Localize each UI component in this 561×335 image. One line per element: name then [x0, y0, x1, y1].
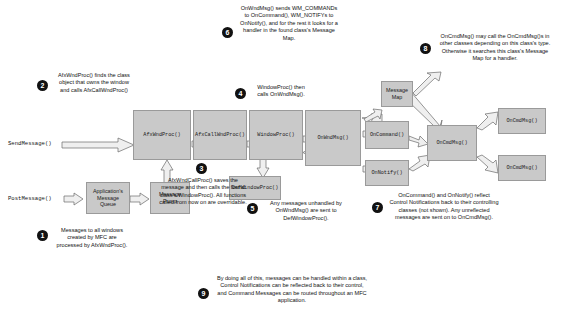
- box-label: Message Map: [386, 87, 408, 101]
- arrow-callout8-pointer: [413, 72, 441, 98]
- box-label: AfxCallWndProc(): [195, 132, 245, 139]
- callout-bullet-1: 1: [37, 230, 48, 241]
- callout-bullet-7: 7: [372, 202, 383, 213]
- box-oncommand: OnCommand(): [365, 121, 409, 149]
- arrow-sendmessage-to-afxwndproc: [62, 138, 136, 152]
- callout-bullet-8: 8: [420, 43, 431, 54]
- box-afxwndproc: AfxWndProc(): [133, 110, 191, 160]
- label-postmessage: PostMessage(): [8, 195, 52, 202]
- box-application-message-queue: Application's Message Queue: [86, 182, 130, 214]
- arrow-oncmdmsg-to-oncmdmsg-other-1: [477, 112, 499, 130]
- label-sendmessage: SendMessage(): [8, 140, 52, 147]
- box-label: OnCmdMsg(): [506, 118, 537, 125]
- box-label: AfxWndProc(): [143, 132, 180, 139]
- box-onnotify: OnNotify(): [365, 160, 409, 186]
- diagram-canvas: SendMessage() PostMessage() Application'…: [0, 0, 561, 335]
- callout-text-5: Any messages unhandled by OnWndMsg() are…: [264, 200, 348, 222]
- box-label: Application's Message Queue: [93, 188, 123, 208]
- callout-text-2: AfxWndProc() finds the class object that…: [55, 72, 133, 94]
- callout-bullet-5: 5: [247, 203, 258, 214]
- box-label: OnWndMsg(): [317, 135, 348, 142]
- arrow-queue-to-pump: [130, 193, 150, 205]
- box-label: OnCmdMsg(): [506, 165, 537, 172]
- callout-bullet-3: 3: [196, 163, 207, 174]
- box-label: WindowProc(): [257, 132, 294, 139]
- box-onwndmsg: OnWndMsg(): [305, 110, 361, 166]
- box-label: OnCommand(): [370, 132, 404, 139]
- arrow-oncommand-to-oncmdmsg: [409, 134, 429, 148]
- callout-bullet-4: 4: [235, 88, 246, 99]
- arrow-postmessage-to-queue: [64, 193, 84, 205]
- arrow-oncmdmsg-to-oncmdmsg-other-2: [477, 155, 499, 173]
- box-label: OnCmdMsg(): [436, 140, 467, 147]
- box-oncmdmsg-other-1: OnCmdMsg(): [498, 108, 546, 134]
- callout-text-9: By doing all of this, messages can be ha…: [216, 275, 368, 305]
- box-windowproc: WindowProc(): [249, 110, 303, 160]
- box-oncmdmsg-other-2: OnCmdMsg(): [498, 155, 546, 181]
- callout-bullet-9: 9: [198, 288, 209, 299]
- callout-text-7: OnCommand() and OnNotify() reflect Contr…: [389, 192, 499, 222]
- box-oncmdmsg: OnCmdMsg(): [427, 125, 477, 161]
- box-label: OnNotify(): [371, 170, 402, 177]
- box-afxcallwndproc: AfxCallWndProc(): [193, 110, 247, 160]
- callout-text-4: WindowProc() then calls OnWndMsg().: [252, 84, 310, 99]
- callout-text-8: OnCmdMsg() may call the OnCmdMsg()s in o…: [437, 33, 553, 63]
- callout-bullet-2: 2: [37, 80, 48, 91]
- callout-text-6: OnWndMsg() sends WM_COMMANDs to OnComman…: [239, 5, 339, 42]
- callout-bullet-6: 6: [222, 27, 233, 38]
- callout-text-1: Messages to all windows created by MFC a…: [55, 227, 129, 249]
- box-message-map: Message Map: [381, 81, 413, 107]
- callout-text-3: AfxWndCallProc() saves the message and t…: [156, 177, 250, 207]
